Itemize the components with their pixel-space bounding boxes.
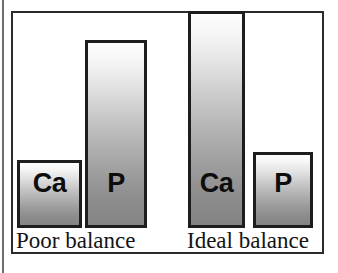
bar-poor-balance-p: P [85, 40, 147, 228]
bar-ideal-balance-ca: Ca [188, 11, 245, 228]
plot-area: Ca P Ca P Poor balance Ideal balance [0, 0, 338, 273]
bar-label-poor-p: P [88, 170, 144, 197]
bar-label-ideal-p: P [256, 170, 310, 197]
bar-poor-balance-ca: Ca [17, 160, 82, 228]
bar-label-ideal-ca: Ca [191, 170, 242, 197]
group-caption-poor-balance: Poor balance [16, 229, 135, 253]
bar-chart-figure: Ca P Ca P Poor balance Ideal balance [0, 0, 338, 273]
bar-ideal-balance-p: P [253, 152, 313, 228]
bar-label-poor-ca: Ca [20, 170, 79, 197]
group-caption-ideal-balance: Ideal balance [187, 229, 309, 253]
